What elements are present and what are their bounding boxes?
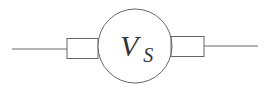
label-subscript: S xyxy=(143,44,153,66)
label-main: V xyxy=(120,29,142,62)
circuit-diagram: V S xyxy=(0,0,267,89)
right-terminal-block xyxy=(171,37,204,57)
voltage-source-symbol: V S xyxy=(0,0,267,89)
left-terminal-block xyxy=(67,39,98,59)
